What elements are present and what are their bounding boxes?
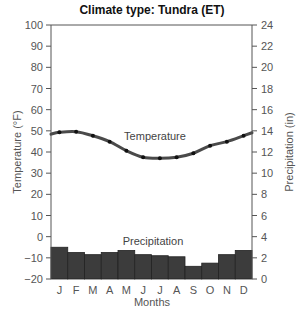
temperature-point	[57, 130, 61, 134]
precipitation-bar	[135, 255, 152, 279]
month-label: A	[173, 284, 181, 296]
month-label: A	[106, 284, 114, 296]
right-axis-title: Precipitation (in)	[283, 112, 295, 191]
right-tick-label: 20	[261, 61, 273, 73]
precipitation-bars	[51, 247, 252, 279]
right-tick-label: 6	[261, 210, 267, 222]
left-tick-label: 10	[31, 210, 43, 222]
month-label: M	[88, 284, 97, 296]
right-axis-ticks: 024681012141618202224	[252, 19, 273, 285]
left-tick-label: 80	[31, 61, 43, 73]
left-tick-label: 90	[31, 40, 43, 52]
precipitation-bar	[101, 253, 118, 279]
precipitation-bar	[185, 266, 202, 279]
right-tick-label: 2	[261, 252, 267, 264]
left-tick-label: 70	[31, 83, 43, 95]
month-label: N	[223, 284, 231, 296]
temperature-point	[242, 134, 246, 138]
month-label: M	[122, 284, 131, 296]
left-tick-label: 20	[31, 188, 43, 200]
precipitation-bar	[68, 253, 85, 279]
right-tick-label: 10	[261, 167, 273, 179]
right-tick-label: 22	[261, 40, 273, 52]
right-tick-label: 24	[261, 19, 273, 31]
temperature-annotation: Temperature	[124, 130, 186, 142]
temperature-point	[158, 156, 162, 160]
precipitation-annotation: Precipitation	[123, 235, 184, 247]
precipitation-bar	[51, 247, 68, 279]
precipitation-bar	[152, 256, 169, 279]
left-tick-label: −10	[24, 252, 43, 264]
temperature-point	[225, 140, 229, 144]
temperature-point	[74, 130, 78, 134]
left-axis-title: Temperature (°F)	[11, 110, 23, 193]
precipitation-bar	[168, 257, 185, 279]
x-axis-title: Months	[134, 296, 171, 308]
temperature-point	[208, 144, 212, 148]
x-axis-labels: JFMAMJJASOND	[57, 284, 248, 296]
temperature-point	[191, 151, 195, 155]
right-tick-label: 12	[261, 146, 273, 158]
month-label: S	[190, 284, 197, 296]
left-axis-ticks: −20−100102030405060708090100	[24, 19, 51, 285]
left-tick-label: 100	[25, 19, 43, 31]
precipitation-bar	[118, 250, 135, 279]
left-tick-label: 0	[37, 231, 43, 243]
right-tick-label: 16	[261, 104, 273, 116]
month-label: F	[73, 284, 80, 296]
temperature-point	[91, 134, 95, 138]
chart-title: Climate type: Tundra (ET)	[79, 3, 224, 17]
left-tick-label: −20	[24, 273, 43, 285]
month-label: J	[157, 284, 163, 296]
precipitation-bar	[85, 255, 102, 279]
climate-chart: Climate type: Tundra (ET) −20−1001020304…	[0, 0, 304, 311]
precipitation-bar	[219, 255, 236, 279]
right-tick-label: 4	[261, 231, 267, 243]
month-label: J	[140, 284, 146, 296]
right-tick-label: 0	[261, 273, 267, 285]
month-label: J	[57, 284, 63, 296]
month-label: D	[240, 284, 248, 296]
right-tick-label: 8	[261, 188, 267, 200]
right-tick-label: 14	[261, 125, 273, 137]
left-tick-label: 50	[31, 125, 43, 137]
temperature-point	[124, 149, 128, 153]
left-tick-label: 40	[31, 146, 43, 158]
temperature-point	[108, 140, 112, 144]
precipitation-bar	[202, 263, 219, 279]
precipitation-bar	[235, 250, 252, 279]
month-label: O	[206, 284, 215, 296]
temperature-point	[175, 155, 179, 159]
left-tick-label: 30	[31, 167, 43, 179]
right-tick-label: 18	[261, 83, 273, 95]
left-tick-label: 60	[31, 104, 43, 116]
temperature-point	[141, 155, 145, 159]
